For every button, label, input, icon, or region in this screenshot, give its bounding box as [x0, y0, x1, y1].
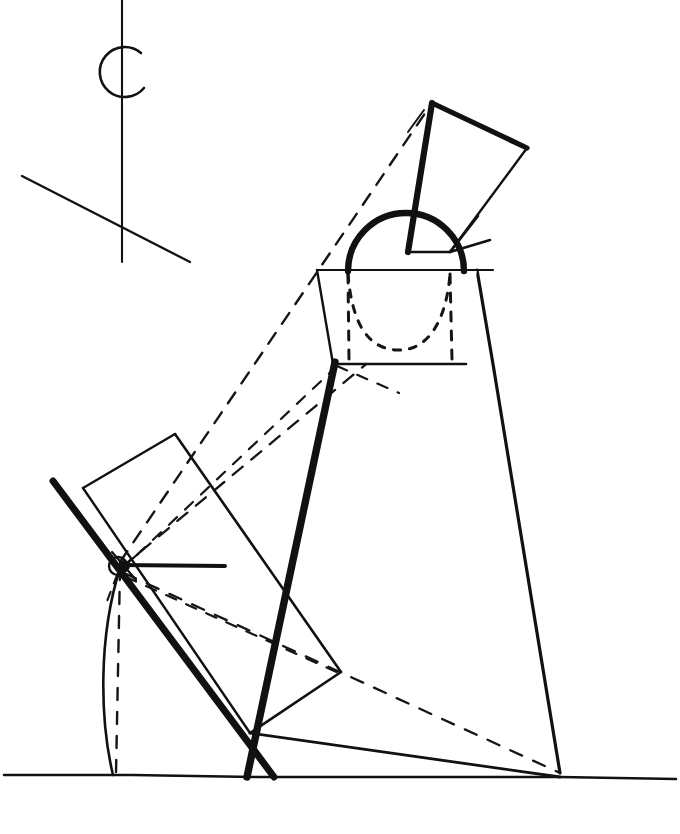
c-marker-cross-line — [22, 176, 190, 262]
ground-line — [4, 775, 676, 779]
lower-rigid-body-left-edge — [83, 488, 250, 733]
upper-rigid-body-group — [408, 103, 527, 252]
construction-to-ground-right — [124, 573, 560, 773]
lower-boom-group — [53, 481, 274, 777]
construction-to-bucket-left — [121, 366, 337, 570]
right-outer-edge — [477, 270, 560, 773]
upper-rigid-body-tick — [408, 110, 424, 132]
main-boom-group — [247, 362, 335, 777]
technical-drawing-canvas: C — [0, 0, 680, 834]
bottom-tie-group — [250, 733, 560, 777]
main-boom-thick-bar — [247, 362, 335, 777]
pivot-horizontal-reference — [120, 565, 225, 566]
lower-rigid-body-top-edge — [83, 434, 175, 488]
plumb-dashed-line — [116, 568, 120, 773]
ground-group — [4, 775, 676, 779]
pivot-group — [103, 552, 225, 775]
lower-boom-thick-bar — [53, 481, 274, 777]
lower-rigid-body-right-edge — [175, 434, 341, 672]
right-outer-edge-group — [477, 270, 560, 773]
c-marker-group — [22, 0, 190, 262]
line-drawing-svg — [0, 0, 680, 834]
bottom-right-tie-line — [250, 733, 560, 777]
